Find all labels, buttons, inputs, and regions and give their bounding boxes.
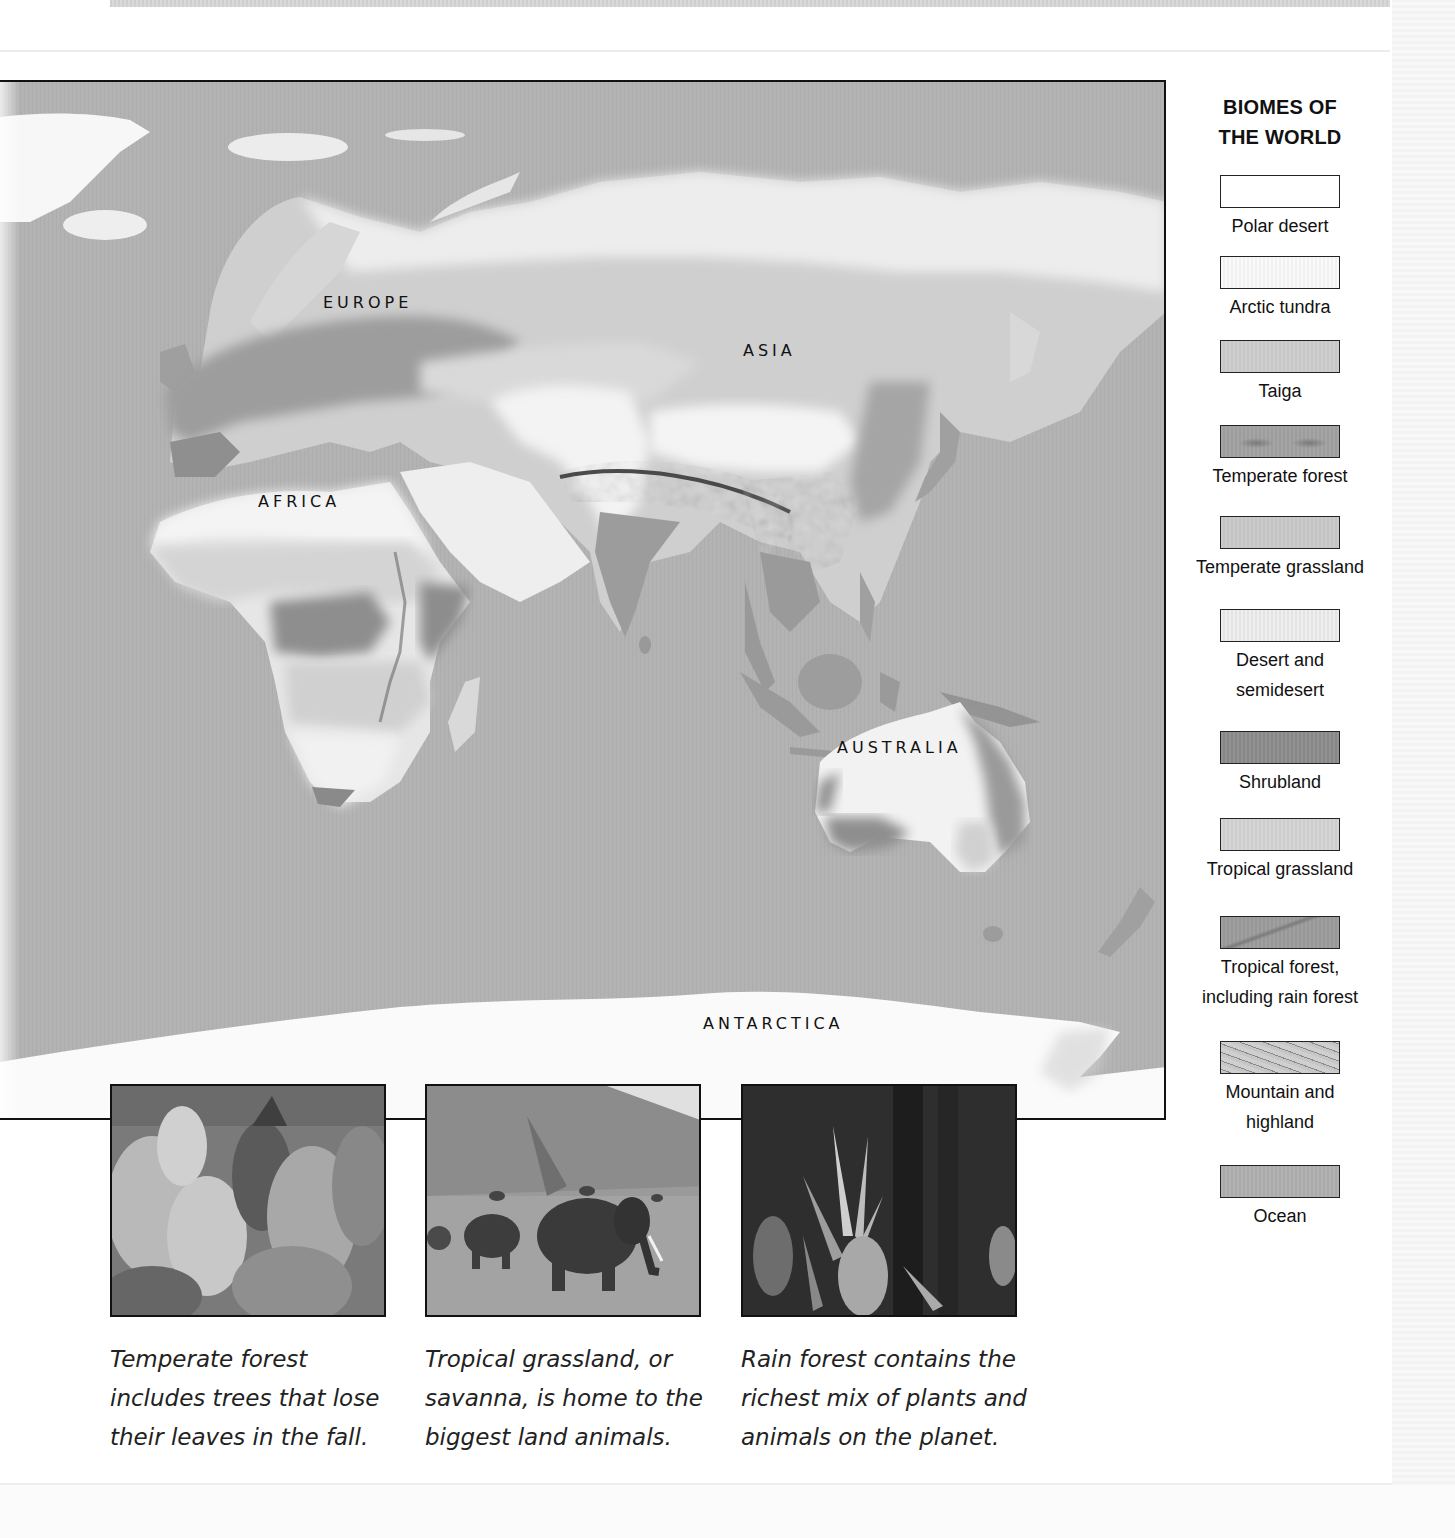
tropical-forest-swatch: [1220, 916, 1340, 949]
legend-label: Temperate grassland: [1190, 552, 1370, 582]
mountain-swatch: [1220, 1041, 1340, 1074]
caption-line: biggest land animals.: [425, 1418, 725, 1457]
legend-label-line-2: including rain forest: [1190, 982, 1370, 1012]
map-label-antarctica: ANTARCTICA: [703, 1014, 844, 1033]
map-graphic: [0, 82, 1166, 1120]
polar-desert-swatch: [1220, 175, 1340, 208]
legend-label: Shrubland: [1190, 767, 1370, 797]
caption-line: savanna, is home to the: [425, 1379, 725, 1418]
savanna-elephants-image: [427, 1086, 701, 1317]
legend-label: Mountain and: [1190, 1077, 1370, 1107]
legend-item-arctic-tundra: Arctic tundra: [1190, 256, 1370, 322]
legend-label: Taiga: [1190, 376, 1370, 406]
ocean-swatch: [1220, 1165, 1340, 1198]
caption-line: richest mix of plants and: [741, 1379, 1041, 1418]
legend-item-mountain: Mountain and highland: [1190, 1041, 1370, 1137]
desert-swatch: [1220, 609, 1340, 642]
taiga-swatch: [1220, 340, 1340, 373]
legend-item-taiga: Taiga: [1190, 340, 1370, 406]
legend-item-temperate-grassland: Temperate grassland: [1190, 516, 1370, 582]
page-top-rule: [0, 50, 1390, 52]
map-label-australia: AUSTRALIA: [837, 738, 962, 757]
map-left-edge-fade: [0, 82, 20, 1118]
page-bottom-band: [0, 1485, 1455, 1538]
legend-label-line-2: highland: [1190, 1107, 1370, 1137]
temperate-forest-swatch: [1220, 425, 1340, 458]
legend-label: Polar desert: [1190, 211, 1370, 241]
legend-label: Arctic tundra: [1190, 292, 1370, 322]
legend-item-tropical-grassland: Tropical grassland: [1190, 818, 1370, 884]
tropical-grassland-swatch: [1220, 818, 1340, 851]
legend-item-polar-desert: Polar desert: [1190, 175, 1370, 241]
caption-savanna: Tropical grassland, or savanna, is home …: [425, 1340, 725, 1457]
photo-savanna-elephants: [425, 1084, 701, 1317]
legend-title-line-2: THE WORLD: [1190, 122, 1370, 152]
shrubland-swatch: [1220, 731, 1340, 764]
legend-item-desert: Desert and semidesert: [1190, 609, 1370, 705]
rain-forest-image: [743, 1086, 1017, 1317]
legend-item-tropical-forest: Tropical forest, including rain forest: [1190, 916, 1370, 1012]
legend-title-line-1: BIOMES OF: [1190, 92, 1370, 122]
caption-line: Tropical grassland, or: [425, 1340, 725, 1379]
map-label-europe: EUROPE: [323, 293, 412, 312]
caption-line: Temperate forest: [110, 1340, 410, 1379]
biome-legend: BIOMES OF THE WORLD Polar desert Arctic …: [1190, 92, 1370, 152]
temperate-grassland-swatch: [1220, 516, 1340, 549]
legend-item-shrubland: Shrubland: [1190, 731, 1370, 797]
legend-label: Desert and: [1190, 645, 1370, 675]
caption-line: animals on the planet.: [741, 1418, 1041, 1457]
map-label-africa: AFRICA: [258, 492, 340, 511]
caption-line: includes trees that lose: [110, 1379, 410, 1418]
legend-label: Tropical grassland: [1190, 854, 1370, 884]
legend-item-temperate-forest: Temperate forest: [1190, 425, 1370, 491]
page-top-band: [110, 0, 1390, 7]
photo-temperate-forest: [110, 1084, 386, 1317]
legend-title: BIOMES OF THE WORLD: [1190, 92, 1370, 152]
arctic-tundra-swatch: [1220, 256, 1340, 289]
page-right-gutter: [1392, 0, 1455, 1538]
photo-rain-forest: [741, 1084, 1017, 1317]
map-label-asia: ASIA: [743, 341, 796, 360]
legend-label: Temperate forest: [1190, 461, 1370, 491]
biomes-world-map: EUROPE ASIA AFRICA AUSTRALIA ANTARCTICA: [0, 80, 1166, 1120]
legend-label-line-2: semidesert: [1190, 675, 1370, 705]
legend-label: Ocean: [1190, 1201, 1370, 1231]
temperate-forest-image: [112, 1086, 386, 1317]
caption-rain-forest: Rain forest contains the richest mix of …: [741, 1340, 1041, 1457]
caption-line: their leaves in the fall.: [110, 1418, 410, 1457]
caption-line: Rain forest contains the: [741, 1340, 1041, 1379]
legend-item-ocean: Ocean: [1190, 1165, 1370, 1231]
legend-label: Tropical forest,: [1190, 952, 1370, 982]
caption-temperate-forest: Temperate forest includes trees that los…: [110, 1340, 410, 1457]
